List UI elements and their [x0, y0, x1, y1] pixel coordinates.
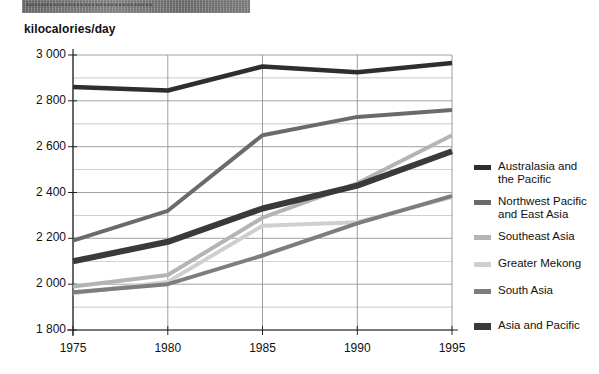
legend-item[interactable]: Australasia and the Pacific [474, 160, 599, 186]
legend-item-label: Asia and Pacific [498, 319, 599, 332]
y-tick-label: 1 800 [8, 322, 66, 336]
x-tick-label: 1990 [327, 341, 387, 355]
y-tick-label: 2 400 [8, 185, 66, 199]
x-tick-label: 1980 [138, 341, 198, 355]
legend-item[interactable]: Southeast Asia [474, 230, 599, 248]
legend-item[interactable]: Greater Mekong [474, 257, 599, 275]
y-tick-label: 2 200 [8, 230, 66, 244]
legend-item-label: Greater Mekong [498, 257, 599, 270]
chart-page: ▪▪▪▪▪▪▪▪▪▪▪▪▪▪▪▪▪▪▪▪▪▪▪▪▪▪▪▪▪▪▪▪▪ kiloca… [0, 0, 599, 374]
legend-item-label: Australasia and the Pacific [498, 160, 599, 186]
y-tick-label: 3 000 [8, 47, 66, 61]
legend-swatch-icon [474, 200, 491, 205]
y-tick-label: 2 600 [8, 139, 66, 153]
legend-item-label: Southeast Asia [498, 230, 599, 243]
x-tick-label: 1985 [233, 341, 293, 355]
x-tick-label: 1995 [422, 341, 482, 355]
legend-swatch-icon [474, 165, 491, 170]
legend-item[interactable]: South Asia [474, 284, 599, 302]
legend-item[interactable]: Northwest Pacific and East Asia [474, 195, 599, 221]
y-tick-label: 2 800 [8, 93, 66, 107]
legend-swatch-icon [474, 235, 491, 240]
legend-item-label: Northwest Pacific and East Asia [498, 195, 599, 221]
y-tick-label: 2 000 [8, 276, 66, 290]
legend-item-label: South Asia [498, 284, 599, 297]
x-tick-label: 1975 [43, 341, 103, 355]
legend-swatch-icon [474, 262, 491, 267]
legend-swatch-icon [474, 289, 491, 294]
legend-item[interactable]: Asia and Pacific [474, 319, 599, 337]
legend-swatch-icon [474, 323, 491, 330]
chart-legend: Australasia and the PacificNorthwest Pac… [474, 160, 599, 346]
